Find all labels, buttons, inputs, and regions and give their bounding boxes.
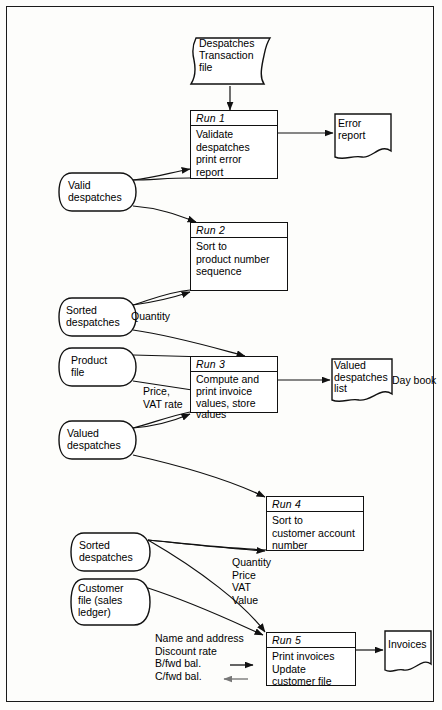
file-label: Despatches Transaction file [188, 32, 278, 74]
file-label: Valid despatches [58, 172, 138, 203]
process-run2[interactable]: Run 2 Sort to product number sequence [190, 222, 288, 291]
process-header: Run 3 [191, 357, 277, 372]
file-label: Sorted despatches [70, 532, 152, 563]
document-label: Valued despatches list [331, 358, 393, 395]
file-label: Product file [58, 347, 138, 378]
process-header: Run 4 [267, 497, 363, 512]
process-header: Run 5 [267, 633, 355, 648]
annotation-price-vat-rate: Price, VAT rate [143, 385, 183, 410]
file-valued-despatches: Valued despatches [58, 420, 138, 460]
process-body: Sort to product number sequence [191, 238, 287, 280]
document-error-report: Error report [334, 113, 392, 163]
process-body: Sort to customer account number [267, 512, 363, 554]
document-invoices: Invoices [384, 630, 432, 676]
file-customer: Customer file (sales ledger) [70, 578, 152, 626]
process-run1[interactable]: Run 1 Validate despatches print error re… [190, 110, 278, 179]
process-run3[interactable]: Run 3 Compute and print invoice values, … [190, 356, 278, 413]
file-product: Product file [58, 347, 138, 387]
file-despatches-transaction: Despatches Transaction file [188, 32, 278, 88]
process-run4[interactable]: Run 4 Sort to customer account number [266, 496, 364, 551]
file-sorted-despatches-product: Sorted despatches [58, 297, 138, 337]
document-valued-despatches-list: Valued despatches list [331, 358, 393, 406]
file-label: Customer file (sales ledger) [70, 578, 152, 619]
annotation-customer-fields: Name and address Discount rate B/fwd bal… [155, 632, 244, 682]
annotation-day-book: Day book [392, 374, 436, 387]
document-label: Error report [334, 113, 392, 141]
file-sorted-despatches-customer: Sorted despatches [70, 532, 152, 572]
process-body: Validate despatches print error report [191, 126, 277, 181]
flowchart-canvas: Despatches Transaction file Valid despat… [0, 0, 442, 710]
file-label: Valued despatches [58, 420, 138, 451]
process-run5[interactable]: Run 5 Print invoices Update customer fil… [266, 632, 356, 686]
process-header: Run 1 [191, 111, 277, 126]
document-label: Invoices [384, 630, 432, 650]
process-body: Compute and print invoice values, store … [191, 372, 277, 423]
annotation-quantity: Quantity [131, 310, 170, 323]
file-valid-despatches: Valid despatches [58, 172, 138, 212]
process-header: Run 2 [191, 223, 287, 238]
process-body: Print invoices Update customer file [267, 648, 355, 690]
annotation-flow-fields: Quantity Price VAT Value [232, 556, 271, 606]
file-label: Sorted despatches [58, 297, 138, 328]
